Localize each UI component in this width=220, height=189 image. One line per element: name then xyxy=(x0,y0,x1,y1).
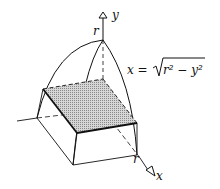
y-axis-label: y xyxy=(111,8,119,22)
dome-diagram: y r x r x = r² − y² xyxy=(0,0,220,189)
x-axis-label: x xyxy=(156,169,163,183)
x-arrow-icon xyxy=(146,166,155,176)
r-top-label: r xyxy=(93,24,100,38)
equation-radicand: r² − y² xyxy=(163,63,203,77)
equation-lhs: x = xyxy=(127,63,148,77)
y-arrow-icon xyxy=(99,12,107,18)
square-cross-section xyxy=(43,79,137,133)
equation: x = r² − y² xyxy=(127,58,205,77)
